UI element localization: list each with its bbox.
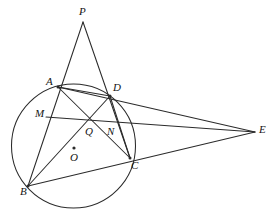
- point-label-m: M: [35, 108, 44, 119]
- point-label-c: C: [131, 160, 138, 171]
- point-label-b: B: [20, 186, 27, 197]
- vertex-dot-d: [109, 95, 112, 98]
- point-label-o: O: [70, 152, 78, 163]
- point-label-n: N: [107, 126, 114, 137]
- point-label-a: A: [46, 76, 53, 87]
- point-label-e: E: [259, 124, 266, 135]
- point-label-d: D: [113, 82, 121, 93]
- point-label-q: Q: [85, 126, 93, 137]
- center-dot-o: [72, 146, 75, 149]
- segment-b-c-e: [28, 132, 255, 186]
- point-label-p: P: [79, 6, 86, 17]
- vertex-dot-a: [57, 86, 60, 89]
- geometry-figure: P A D M Q N O C B E: [0, 0, 276, 219]
